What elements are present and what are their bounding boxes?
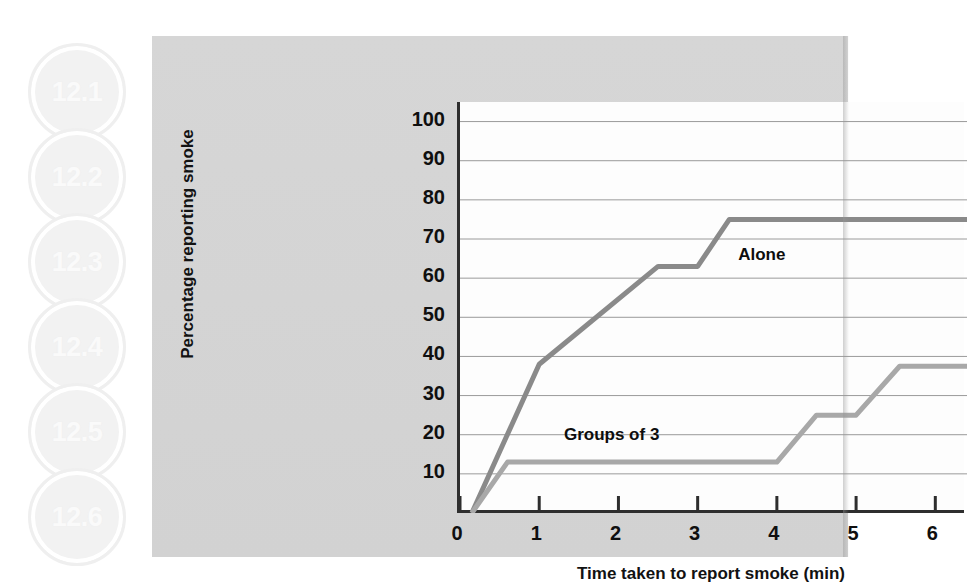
section-badge-12-3[interactable]: 12.3: [28, 213, 126, 311]
section-badge-label: 12.5: [52, 417, 103, 448]
plot-area: [457, 102, 964, 513]
section-badge-12-4[interactable]: 12.4: [28, 298, 126, 396]
x-axis-tick-label: 4: [754, 522, 794, 545]
series-label-groups-of-3: Groups of 3: [564, 425, 659, 445]
x-axis-title: Time taken to report smoke (min): [457, 564, 965, 584]
section-badge-label: 12.2: [52, 162, 103, 193]
y-axis-tick-label: 60: [385, 264, 445, 287]
x-axis-tick-label: 5: [833, 522, 873, 545]
section-badge-12-6[interactable]: 12.6: [28, 468, 126, 566]
section-badge-label: 12.4: [52, 332, 103, 363]
y-axis-tick-label: 50: [385, 303, 445, 326]
data-series: [472, 219, 967, 513]
x-axis-tick-label: 0: [437, 522, 477, 545]
x-axis-tick-label: 3: [675, 522, 715, 545]
series-label-alone: Alone: [738, 245, 785, 265]
series-line-alone: [472, 219, 967, 513]
y-axis-tick-label: 20: [385, 421, 445, 444]
y-axis-title: Percentage reporting smoke: [178, 104, 198, 384]
y-axis-tick-label: 100: [385, 108, 445, 131]
section-badge-12-2[interactable]: 12.2: [28, 128, 126, 226]
y-axis-tick-label: 70: [385, 225, 445, 248]
y-axis-tick-label: 80: [385, 186, 445, 209]
line-chart-svg: [460, 102, 967, 513]
section-badge-label: 12.1: [52, 77, 103, 108]
y-axis-tick-label: 30: [385, 382, 445, 405]
figure-panel: Percentage reporting smoke Time taken to…: [152, 36, 848, 557]
y-axis-tick-label: 90: [385, 147, 445, 170]
x-axis-tick-label: 1: [516, 522, 556, 545]
x-axis-tick-label: 6: [912, 522, 952, 545]
section-badge-label: 12.3: [52, 247, 103, 278]
x-axis-ticks: [460, 496, 935, 512]
panel-edge-shadow: [843, 36, 849, 557]
series-line-groups-of-3: [472, 366, 967, 513]
section-badge-12-5[interactable]: 12.5: [28, 383, 126, 481]
gridlines: [460, 122, 967, 474]
x-axis-tick-label: 2: [595, 522, 635, 545]
section-badge-label: 12.6: [52, 502, 103, 533]
section-badge-12-1[interactable]: 12.1: [28, 43, 126, 141]
section-badge-sidebar: 12.1 12.2 12.3 12.4 12.5 12.6: [0, 0, 152, 557]
y-axis-tick-label: 10: [385, 460, 445, 483]
y-axis-tick-label: 40: [385, 342, 445, 365]
